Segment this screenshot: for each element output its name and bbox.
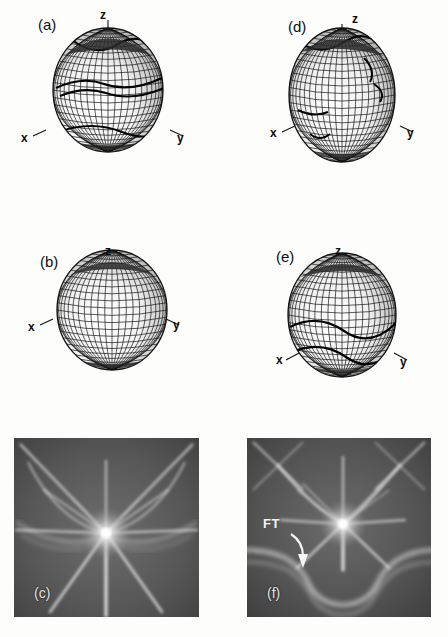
- panel-a-axis-y: y: [177, 131, 184, 145]
- panel-f-label: (f): [267, 585, 280, 601]
- panel-b: (b) z x y: [0, 205, 224, 395]
- figure-root: (a) z x y: [0, 0, 448, 637]
- panel-d-label: (d): [288, 18, 306, 35]
- panel-e-axis-x: x: [276, 353, 283, 367]
- panel-e-label: (e): [276, 248, 294, 265]
- panel-a-axis-x: x: [21, 131, 28, 145]
- panel-f-image: FT (f): [247, 438, 431, 617]
- panel-e: (e) z x y: [224, 205, 448, 395]
- panel-c-label: (c): [34, 585, 50, 601]
- panel-a-surface: [0, 0, 224, 205]
- panel-b-axis-y: y: [173, 318, 180, 332]
- panel-d-axis-y: y: [407, 126, 414, 140]
- ft-annotation-label: FT: [263, 516, 280, 531]
- panel-c-image: (c): [14, 438, 199, 617]
- panel-a: (a) z x y: [0, 0, 224, 205]
- panel-a-label: (a): [38, 16, 56, 33]
- panel-e-surface: [224, 205, 448, 395]
- panel-d-surface: [224, 0, 448, 205]
- panel-b-axis-z: z: [105, 244, 111, 258]
- panel-b-surface: [0, 205, 224, 395]
- panel-a-axis-z: z: [100, 8, 106, 22]
- panel-e-axis-z: z: [335, 244, 341, 258]
- panel-d-axis-x: x: [270, 126, 277, 140]
- panel-b-axis-x: x: [28, 320, 35, 334]
- panel-b-label: (b): [40, 253, 58, 270]
- panel-e-axis-y: y: [400, 355, 407, 369]
- panel-d: (d) z x y: [224, 0, 448, 205]
- panel-d-axis-z: z: [352, 12, 358, 26]
